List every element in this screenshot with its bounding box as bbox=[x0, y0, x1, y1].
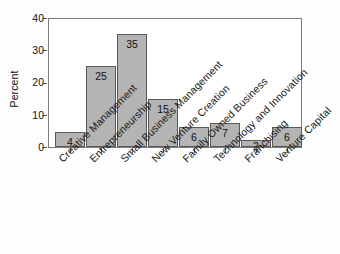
bar-chart-figure: Percent 40 30 20 10 0 4 25 35 15 6 7 bbox=[0, 0, 340, 254]
x-axis-labels: Creative Management Entrepreneurship Sma… bbox=[0, 0, 340, 254]
x-label-venture-capital: Venture Capital bbox=[273, 104, 333, 164]
